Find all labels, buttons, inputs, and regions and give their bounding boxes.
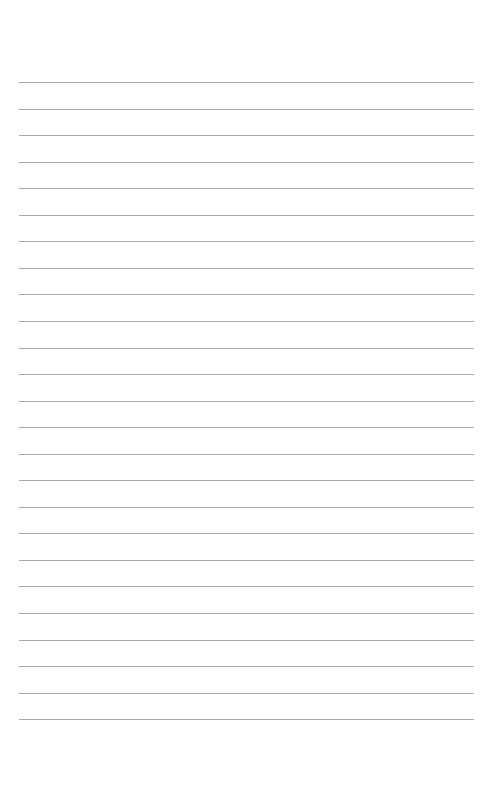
lined-paper-sheet: [0, 0, 504, 796]
ruled-line: [19, 109, 474, 110]
ruled-line: [19, 560, 474, 561]
ruled-line: [19, 719, 474, 720]
ruled-line: [19, 533, 474, 534]
ruled-line: [19, 268, 474, 269]
ruled-line: [19, 162, 474, 163]
ruled-line: [19, 294, 474, 295]
ruled-line: [19, 480, 474, 481]
ruled-line: [19, 82, 474, 83]
ruled-line: [19, 135, 474, 136]
ruled-line: [19, 640, 474, 641]
ruled-line: [19, 427, 474, 428]
ruled-line: [19, 374, 474, 375]
ruled-line: [19, 321, 474, 322]
ruled-line: [19, 586, 474, 587]
ruled-line: [19, 188, 474, 189]
ruled-line: [19, 241, 474, 242]
ruled-line: [19, 215, 474, 216]
ruled-line: [19, 507, 474, 508]
ruled-line: [19, 348, 474, 349]
ruled-line: [19, 613, 474, 614]
ruled-line: [19, 401, 474, 402]
ruled-line: [19, 666, 474, 667]
ruled-line: [19, 454, 474, 455]
ruled-line: [19, 693, 474, 694]
